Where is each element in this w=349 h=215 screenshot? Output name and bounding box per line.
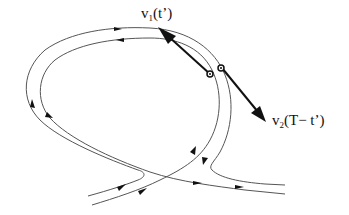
label-v2: v2(T− t’): [272, 113, 325, 130]
point-on-outer-trajectory: [218, 65, 224, 71]
label-v1-base: v: [141, 5, 149, 21]
label-v1-arg: (t’): [153, 5, 172, 21]
arrow-icon: [202, 157, 208, 165]
point-on-inner-trajectory: [207, 71, 213, 77]
label-v1: v1(t’): [141, 6, 172, 23]
arrow-icon: [116, 38, 124, 42]
arrow-icon: [193, 181, 202, 185]
vector-v1-arrow: [158, 27, 210, 74]
arrow-icon: [30, 99, 35, 108]
vector-v2-arrow: [222, 68, 266, 122]
arrow-icon: [117, 184, 126, 191]
label-v2-arg: (T− t’): [284, 112, 325, 128]
arrow-icon: [235, 185, 244, 189]
outer-trajectory: [26, 28, 285, 196]
trajectory-diagram: [0, 0, 349, 215]
arrow-icon: [190, 146, 196, 155]
label-v2-base: v: [272, 112, 280, 128]
inner-trajectory: [40, 38, 285, 205]
